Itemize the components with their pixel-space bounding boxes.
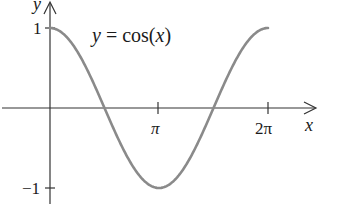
chart-canvas: y x 1 −1 π 2π y = cos(x) [0,0,344,215]
function-annotation: y = cos(x) [90,24,171,47]
y-axis-label: y [31,0,41,14]
x-axis-label: x [304,115,313,135]
y-tick-label-neg1: −1 [22,179,40,198]
x-tick-label-2pi: 2π [255,119,273,138]
y-tick-label-1: 1 [33,19,42,38]
x-tick-label-2pi-text: 2π [255,119,273,138]
x-tick-label-pi: π [151,119,160,138]
